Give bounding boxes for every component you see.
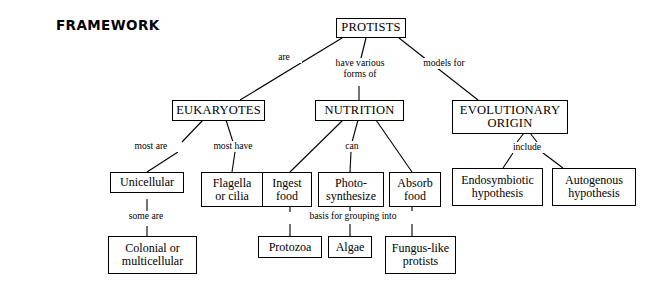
connector-evolution-autogenous-2 <box>543 153 563 168</box>
node-protists[interactable]: PROTISTS <box>336 18 406 38</box>
connector-protists-evolutionary-origin <box>399 38 478 100</box>
connector-nutrition-photosynthesize <box>352 120 358 142</box>
edge-label-models-for: models for <box>412 58 476 69</box>
connector-eukaryotes-unicellular-2 <box>147 152 178 172</box>
connector-eukaryotes-flagella-2 <box>232 152 235 172</box>
node-protozoa[interactable]: Protozoa <box>258 236 322 258</box>
page-title: FRAMEWORK <box>56 17 160 33</box>
node-evolutionary-origin[interactable]: EVOLUTIONARY ORIGIN <box>452 100 568 134</box>
node-endosymbiotic-hypothesis[interactable]: Endosymbiotic hypothesis <box>452 168 543 206</box>
node-nutrition[interactable]: NUTRITION <box>315 100 404 121</box>
node-ingest-food[interactable]: Ingest food <box>262 172 312 207</box>
connector-nutrition-photosynthesize-2 <box>350 152 351 172</box>
node-photosynthesize[interactable]: Photo- synthesize <box>318 172 384 207</box>
edge-label-most-are: most are <box>122 141 180 152</box>
edge-label-include: include <box>497 142 557 153</box>
edge-label-have-various-forms-of: have various forms of <box>319 58 401 79</box>
node-flagella-or-cilia[interactable]: Flagella or cilia <box>201 172 263 207</box>
node-absorb-food[interactable]: Absorb food <box>389 172 441 207</box>
node-algae[interactable]: Algae <box>328 236 372 258</box>
edge-label-can: can <box>333 141 371 152</box>
edge-label-some-are: some are <box>113 211 179 222</box>
node-fungus-like-protists[interactable]: Fungus-like protists <box>385 236 456 274</box>
concept-map-page: FRAMEWORK <box>0 0 661 283</box>
node-autogenous-hypothesis[interactable]: Autogenous hypothesis <box>552 168 636 206</box>
edge-label-are: are <box>266 52 302 63</box>
node-unicellular[interactable]: Unicellular <box>110 172 184 193</box>
node-eukaryotes[interactable]: EUKARYOTES <box>172 100 265 121</box>
connector-eukaryotes-flagella <box>226 120 233 142</box>
node-colonial-or-multicellular[interactable]: Colonial or multicellular <box>108 236 197 274</box>
connector-eukaryotes-unicellular <box>182 120 203 142</box>
connector-nutrition-absorb <box>376 120 412 172</box>
connector-evolution-endosymbiotic-2 <box>503 153 513 168</box>
edge-label-most-have: most have <box>201 141 265 152</box>
edge-label-basis-for-grouping-into: basis for grouping into <box>291 211 415 222</box>
